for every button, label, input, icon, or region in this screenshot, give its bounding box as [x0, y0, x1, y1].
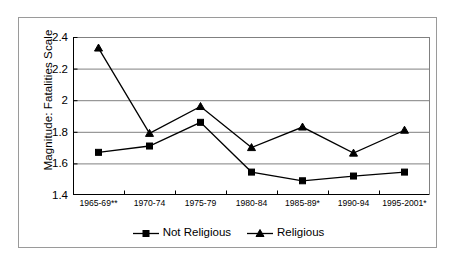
series-not-religious	[96, 119, 408, 183]
triangle-marker	[95, 44, 103, 51]
square-marker	[198, 119, 204, 125]
legend-key-svg	[247, 228, 273, 239]
plot-svg	[73, 37, 430, 195]
triangle-marker	[350, 149, 358, 156]
y-axis-tick-label: 1.8	[28, 126, 68, 138]
plot-area	[73, 37, 430, 195]
legend-item: Not Religious	[133, 227, 231, 239]
x-axis-tick-label: 1995-2001*	[360, 198, 450, 208]
chart-figure: Magnitude: Fatalities Scale 1.41.61.822.…	[18, 17, 437, 248]
y-axis-tick-label: 2.4	[28, 31, 68, 43]
y-axis-tick-label: 1.6	[28, 157, 68, 169]
series-religious	[95, 44, 409, 156]
square-marker	[300, 178, 306, 184]
y-axis-tick-label: 2.2	[28, 63, 68, 75]
square-marker	[351, 173, 357, 179]
triangle-marker	[247, 228, 273, 239]
square-marker	[147, 143, 153, 149]
triangle-marker	[197, 103, 205, 110]
triangle-marker	[401, 126, 409, 133]
y-axis-tick-labels: 1.41.61.822.22.4	[27, 37, 73, 195]
legend-label: Not Religious	[163, 227, 231, 239]
legend-key-svg	[133, 228, 159, 239]
legend-item: Religious	[247, 227, 324, 239]
square-marker	[96, 149, 102, 155]
square-marker	[133, 228, 159, 239]
square-marker	[402, 169, 408, 175]
x-axis-tick-labels: 1965-69**1970-741975-791980-841985-89*19…	[73, 198, 430, 214]
y-axis-tick-label: 2	[28, 94, 68, 106]
square-marker	[249, 169, 255, 175]
chart-legend: Not ReligiousReligious	[19, 223, 438, 243]
square-marker	[143, 230, 149, 236]
triangle-marker	[299, 123, 307, 130]
legend-label: Religious	[277, 227, 324, 239]
triangle-marker	[146, 129, 154, 136]
